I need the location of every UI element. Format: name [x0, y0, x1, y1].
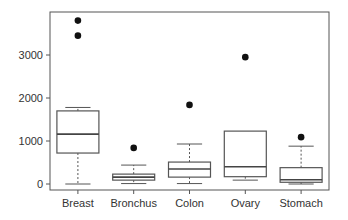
x-tick-label: Stomach	[279, 197, 322, 209]
outlier-point	[75, 32, 82, 39]
box-stomach	[280, 134, 322, 184]
x-tick-label: Ovary	[231, 197, 261, 209]
x-tick-label: Colon	[175, 197, 204, 209]
y-tick-label: 3000	[19, 49, 43, 61]
y-axis: 0100020003000	[19, 49, 50, 190]
x-axis: BreastBronchusColonOvaryStomach	[62, 190, 323, 209]
outlier-point	[186, 102, 193, 109]
outlier-point	[298, 134, 305, 141]
y-tick-label: 0	[37, 178, 43, 190]
y-tick-label: 2000	[19, 92, 43, 104]
iqr-box	[57, 111, 99, 153]
box-plot-chart: 0100020003000 BreastBronchusColonOvarySt…	[0, 0, 348, 220]
box-breast	[57, 17, 99, 184]
y-tick-label: 1000	[19, 135, 43, 147]
box-ovary	[224, 54, 266, 180]
outlier-point	[75, 17, 82, 24]
outlier-point	[242, 54, 249, 61]
outlier-point	[130, 145, 137, 152]
box-bronchus	[113, 145, 155, 184]
x-tick-label: Bronchus	[110, 197, 157, 209]
x-tick-label: Breast	[62, 197, 94, 209]
iqr-box	[224, 131, 266, 177]
box-colon	[169, 102, 211, 184]
boxes-group	[57, 17, 322, 184]
